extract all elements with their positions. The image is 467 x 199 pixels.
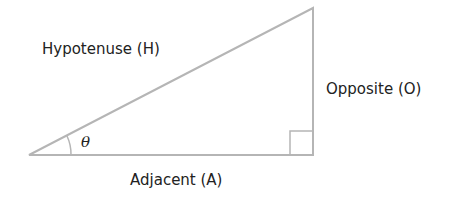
angle-arc bbox=[67, 136, 71, 155]
right-triangle bbox=[29, 8, 313, 155]
right-angle-marker bbox=[290, 131, 313, 155]
adjacent-label: Adjacent (A) bbox=[130, 171, 222, 189]
triangle-diagram bbox=[0, 0, 467, 199]
theta-symbol: θ bbox=[81, 133, 90, 151]
opposite-label: Opposite (O) bbox=[326, 80, 421, 98]
hypotenuse-label: Hypotenuse (H) bbox=[42, 40, 160, 58]
